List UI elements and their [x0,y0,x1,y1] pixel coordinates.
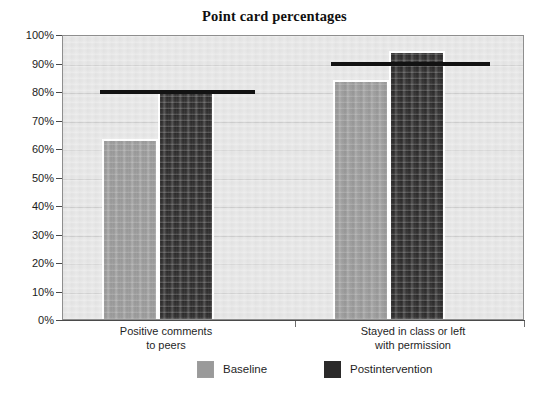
y-tick-label-100: 100% [0,29,54,41]
y-tick-label-20: 20% [0,257,54,269]
x-axis-category-label-positive-comments: Positive comments to peers [92,325,240,352]
x-axis-end-tick [524,321,525,327]
bar-texture [335,82,387,319]
y-tick-label-50: 50% [0,172,54,184]
bar-texture [160,93,212,319]
reference-line-80-percent [100,90,255,94]
bar-postintervention-stayed-in-class [389,51,445,319]
y-tick-label-10: 10% [0,286,54,298]
legend-swatch-baseline [197,361,214,378]
bar-texture [104,141,156,319]
bar-postintervention-positive-comments [158,91,214,319]
plot-area [62,35,524,320]
y-tick-label-30: 30% [0,229,54,241]
x-axis-category-label-line-2: to peers [92,339,240,353]
legend-label-baseline: Baseline [223,363,267,375]
bar-baseline-positive-comments [102,139,158,319]
legend-label-postintervention: Postintervention [350,363,432,375]
bar-texture [391,53,443,319]
bar-baseline-stayed-in-class [333,80,389,319]
x-axis-category-label-line-1: Stayed in class or left [330,325,496,339]
x-axis-category-label-line-2: with permission [330,339,496,353]
y-axis-tick-labels: 100% 90% 80% 70% 60% 50% 40% 30% 20% 10%… [0,0,55,405]
legend: Baseline Postintervention [62,358,524,384]
y-tick-label-90: 90% [0,58,54,70]
legend-entry-postintervention: Postintervention [324,358,432,380]
x-axis-category-label-line-1: Positive comments [92,325,240,339]
page-title: Point card percentages [0,8,549,25]
y-tick-label-60: 60% [0,143,54,155]
x-axis-category-label-stayed-in-class: Stayed in class or left with permission [330,325,496,352]
reference-line-90-percent [331,62,490,66]
x-axis-category-separator-tick [295,321,296,327]
gridline-70 [63,122,523,123]
y-tick-label-0: 0% [0,314,54,326]
x-axis-line [62,320,525,321]
chart-screenshot: Point card percentages 100% 90% 80% 70% … [0,0,549,405]
legend-swatch-postintervention [324,361,341,378]
y-tick-label-70: 70% [0,115,54,127]
y-tick-label-80: 80% [0,86,54,98]
legend-entry-baseline: Baseline [197,358,267,380]
y-tick-label-40: 40% [0,200,54,212]
